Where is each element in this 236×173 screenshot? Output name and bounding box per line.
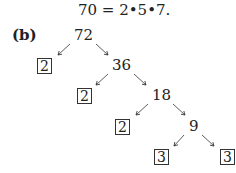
tree-arrows — [0, 0, 236, 173]
